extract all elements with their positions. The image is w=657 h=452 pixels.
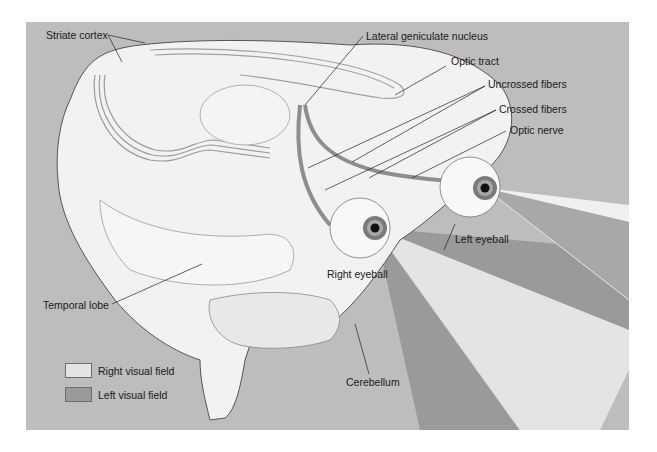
diagram-panel: Striate cortex Lateral geniculate nucleu… [26,22,629,430]
label-crossed-fibers: Crossed fibers [499,103,567,115]
right-eyeball-graphic [330,198,390,258]
cerebellum-shape [209,293,339,349]
legend-swatch-right-visual-field [65,363,92,378]
left-eyeball-graphic [440,157,500,217]
label-uncrossed-fibers: Uncrossed fibers [488,78,567,90]
label-right-eyeball: Right eyeball [327,268,388,280]
label-temporal-lobe: Temporal lobe [43,299,109,311]
legend-swatch-left-visual-field [65,387,92,402]
label-left-eyeball: Left eyeball [455,233,509,245]
label-optic-tract: Optic tract [451,55,499,67]
label-striate-cortex: Striate cortex [46,29,108,41]
legend-label-left-visual-field: Left visual field [98,389,167,401]
label-lateral-geniculate-nucleus: Lateral geniculate nucleus [366,30,488,42]
label-cerebellum: Cerebellum [346,376,400,388]
label-optic-nerve: Optic nerve [510,124,564,136]
thalamus-shape [200,85,290,145]
legend-label-right-visual-field: Right visual field [98,365,174,377]
